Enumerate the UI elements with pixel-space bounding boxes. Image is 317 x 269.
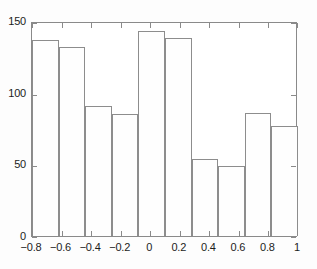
y-tick [291,237,296,238]
x-tick [297,231,298,236]
histogram-bar [59,47,86,236]
x-tick [150,231,151,236]
x-tick [180,23,181,28]
y-tick-label: 150 [0,15,26,27]
x-tick [268,231,269,236]
x-tick [32,231,33,236]
x-tick [209,23,210,28]
histogram-bar [271,126,298,236]
histogram-bar [245,113,272,236]
x-tick [180,231,181,236]
x-tick-label: 1 [277,241,317,253]
x-tick [91,231,92,236]
histogram-bar [218,166,245,236]
y-tick [32,237,37,238]
histogram-bar [165,38,192,236]
histogram-bar [192,159,219,236]
y-tick-label: 0 [0,230,26,242]
x-tick [239,231,240,236]
y-tick [291,95,296,96]
x-tick [150,23,151,28]
x-tick [91,23,92,28]
y-tick-label: 50 [0,158,26,170]
x-tick [121,231,122,236]
x-tick [239,23,240,28]
histogram-bar [85,106,112,236]
y-tick [291,166,296,167]
y-tick [32,95,37,96]
histogram-bar [138,31,165,236]
x-tick [62,231,63,236]
x-tick [121,23,122,28]
bar-series [32,23,296,236]
x-tick [297,23,298,28]
y-tick [32,23,37,24]
y-tick [32,166,37,167]
y-tick-label: 100 [0,87,26,99]
x-tick [268,23,269,28]
x-tick [209,231,210,236]
histogram-bar [32,40,59,236]
histogram-figure: −0.8−0.6−0.4−0.200.20.40.60.81 050100150 [0,0,317,269]
y-tick [291,23,296,24]
plot-area [31,22,297,237]
x-tick [62,23,63,28]
histogram-bar [112,114,139,236]
